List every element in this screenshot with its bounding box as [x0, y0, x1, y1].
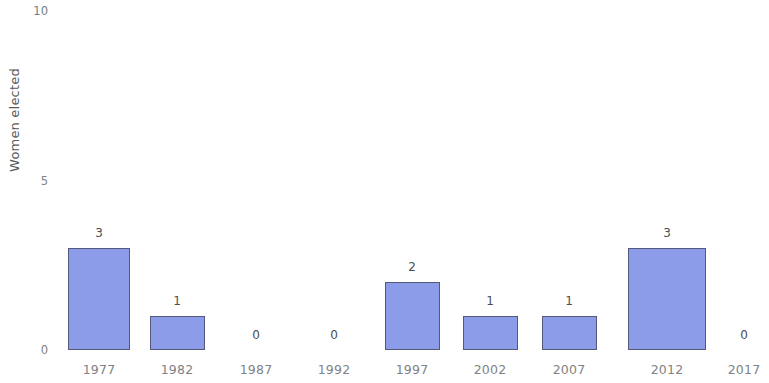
bar-value-label: 0	[714, 328, 769, 343]
x-axis-tick-label: 1982	[137, 362, 217, 378]
bar-value-label: 1	[147, 294, 207, 309]
bar	[68, 248, 130, 350]
bar	[150, 316, 205, 350]
x-axis-tick-label: 2007	[529, 362, 609, 378]
x-axis-tick-label: 1977	[59, 362, 139, 378]
bar	[542, 316, 597, 350]
x-axis-tick-label: 2017	[704, 362, 769, 378]
bar	[463, 316, 518, 350]
bar-value-label: 3	[69, 226, 129, 241]
x-axis-tick-label: 2002	[450, 362, 530, 378]
x-axis-tick-label: 1997	[372, 362, 452, 378]
x-axis-tick-label: 2012	[627, 362, 707, 378]
bar-value-label: 3	[637, 226, 697, 241]
bar-value-label: 2	[382, 260, 442, 275]
bar-value-label: 1	[460, 294, 520, 309]
bar-value-label: 0	[226, 328, 286, 343]
x-axis-tick-label: 1992	[294, 362, 374, 378]
x-axis-tick-label: 1987	[216, 362, 296, 378]
bar-value-label: 0	[304, 328, 364, 343]
bar	[385, 282, 440, 350]
plot-area: 3197711982019870199221997120021200732012…	[0, 0, 769, 383]
bar	[628, 248, 706, 350]
bar-value-label: 1	[539, 294, 599, 309]
bar-chart: Women elected 0510 319771198201987019922…	[0, 0, 769, 383]
